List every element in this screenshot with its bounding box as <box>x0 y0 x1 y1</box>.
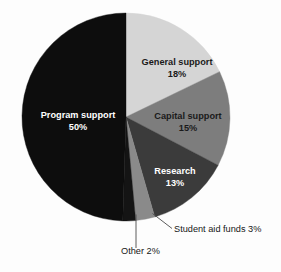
pie-chart: General support 18% Capital support 15% … <box>0 0 281 272</box>
slice-value-research: 13% <box>166 178 184 188</box>
slice-value-capital-support: 15% <box>179 123 197 133</box>
pie-chart-svg: General support 18% Capital support 15% … <box>0 0 281 272</box>
outside-label-student-aid-funds: Student aid funds 3% <box>174 224 261 234</box>
slice-label-capital-support: Capital support <box>154 111 221 121</box>
slice-label-research: Research <box>154 166 196 176</box>
slice-value-general-support: 18% <box>168 69 186 79</box>
leader-line-student-aid-funds <box>153 214 173 229</box>
outside-label-other: Other 2% <box>121 246 160 256</box>
pie-outside-labels: Student aid funds 3% Other 2% <box>121 224 261 256</box>
slice-value-program-support: 50% <box>69 122 87 132</box>
slice-label-general-support: General support <box>142 57 213 67</box>
slice-label-program-support: Program support <box>41 110 116 120</box>
